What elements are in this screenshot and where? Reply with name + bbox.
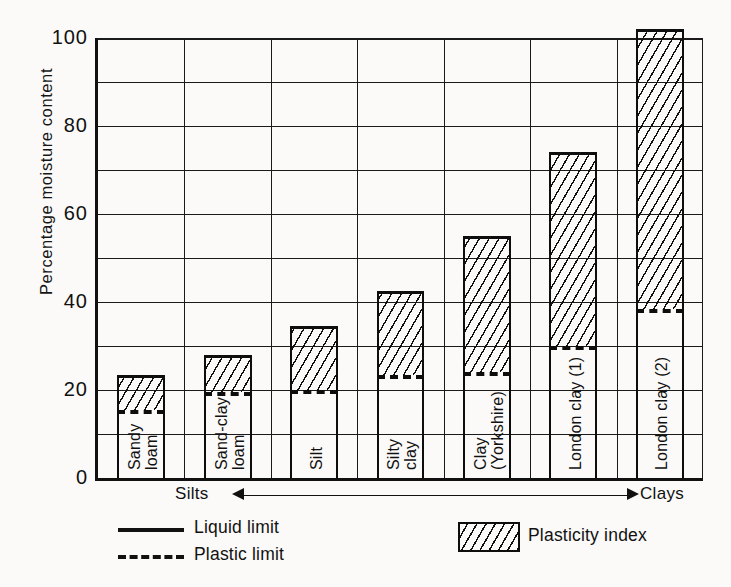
gridline-x-5 <box>530 38 531 478</box>
legend-item-liquid-limit: Liquid limit <box>118 516 418 543</box>
direction-axis-line <box>240 495 635 496</box>
arrow-left-icon <box>232 488 244 500</box>
bar-7: London clay (2) <box>636 29 684 478</box>
plastic-limit-line <box>636 309 684 313</box>
gridline-x-1 <box>184 38 185 478</box>
plastic-limit-line <box>117 410 165 414</box>
chart-figure: Percentage moisture content 020406080100… <box>0 0 731 587</box>
gridline-y-60 <box>98 214 703 215</box>
hatched-box-swatch-icon <box>458 522 520 552</box>
axis-direction-row: Silts Clays <box>95 484 700 510</box>
arrow-right-icon <box>627 488 639 500</box>
y-tick-label-100: 100 <box>26 26 88 49</box>
legend-label-plasticity-index: Plasticity index <box>528 525 647 546</box>
plastic-limit-line <box>463 372 511 376</box>
plasticity-index-hatch <box>377 291 425 375</box>
legend-limits: Liquid limit Plastic limit <box>118 516 418 570</box>
gridline-x-2 <box>271 38 272 478</box>
gridline-x-6 <box>617 38 618 478</box>
legend-label-plastic-limit: Plastic limit <box>194 544 284 565</box>
plasticity-index-hatch <box>290 326 338 390</box>
y-tick-label-0: 0 <box>26 466 88 489</box>
solid-line-swatch-icon <box>118 528 184 532</box>
gridline-y-50 <box>98 258 703 259</box>
gridline-x-4 <box>444 38 445 478</box>
plastic-limit-line <box>377 375 425 379</box>
bar-6: London clay (1) <box>549 152 597 478</box>
bar-1: Sandy loam <box>117 375 165 478</box>
gridline-y-100 <box>98 38 703 40</box>
plasticity-index-hatch <box>549 152 597 346</box>
y-tick-label-20: 20 <box>26 378 88 401</box>
bar-2: Sand-clay loam <box>204 355 252 478</box>
dashed-line-swatch-icon <box>118 555 184 559</box>
y-axis-tick-labels: 020406080100 <box>20 0 88 587</box>
bar-category-label-5: Clay (Yorkshire) <box>472 391 506 470</box>
bar-4: Silty clay <box>377 291 425 478</box>
legend-label-liquid-limit: Liquid limit <box>194 517 279 538</box>
bar-category-label-3: Silt <box>308 447 325 470</box>
plot-area: Sandy loamSand-clay loamSiltSilty clayCl… <box>95 38 703 481</box>
bar-category-label-2: Sand-clay loam <box>213 397 247 470</box>
plastic-limit-line <box>549 346 597 350</box>
plastic-limit-line <box>290 390 338 394</box>
direction-label-silts: Silts <box>175 484 209 504</box>
bar-category-label-1: Sandy loam <box>126 424 160 470</box>
gridline-y-70 <box>98 170 703 171</box>
plastic-limit-line <box>204 392 252 396</box>
y-tick-label-60: 60 <box>26 202 88 225</box>
y-tick-label-40: 40 <box>26 290 88 313</box>
bar-category-label-7: London clay (2) <box>653 357 670 470</box>
bar-category-label-4: Silty clay <box>385 439 419 470</box>
gridline-y-80 <box>98 126 703 127</box>
plasticity-index-hatch <box>463 236 511 372</box>
legend-item-plastic-limit: Plastic limit <box>118 543 418 570</box>
plasticity-index-hatch <box>636 29 684 308</box>
plasticity-index-hatch <box>204 355 252 392</box>
direction-label-clays: Clays <box>640 484 684 504</box>
plasticity-index-hatch <box>117 375 165 410</box>
bar-category-label-6: London clay (1) <box>567 357 584 470</box>
gridline-x-3 <box>357 38 358 478</box>
bar-3: Silt <box>290 326 338 478</box>
gridline-y-90 <box>98 82 703 83</box>
y-tick-label-80: 80 <box>26 114 88 137</box>
bar-5: Clay (Yorkshire) <box>463 236 511 478</box>
